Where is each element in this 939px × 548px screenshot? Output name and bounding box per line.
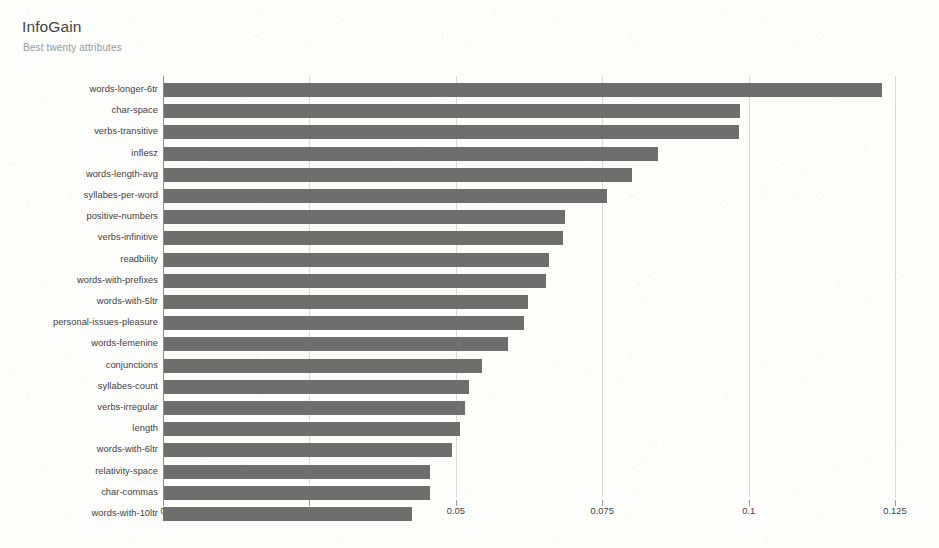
- x-tick-label: 0.05: [447, 506, 465, 516]
- y-tick-label-syllabes-count: syllabes-count: [0, 381, 158, 391]
- y-tick-label-verbs-irregular: verbs-irregular: [0, 402, 158, 412]
- bar-fill: [163, 125, 739, 139]
- x-tick-mark: [895, 500, 896, 506]
- chart-title: InfoGain: [22, 18, 81, 36]
- bar-fill: [163, 507, 412, 521]
- gridline-0.125: [895, 76, 896, 498]
- bar-fill: [163, 422, 460, 436]
- bar-fill: [163, 231, 563, 245]
- y-tick-label-verbs-transitive: verbs-transitive: [0, 126, 158, 136]
- x-tick-mark: [602, 500, 603, 506]
- y-tick-label-verbs-infinitive: verbs-infinitive: [0, 232, 158, 242]
- bar-fill: [163, 316, 524, 330]
- bar-fill: [163, 486, 430, 500]
- bar-words-with-5ltr[interactable]: [163, 295, 528, 309]
- y-tick-label-words-length-avg: words-length-avg: [0, 169, 158, 179]
- x-tick-label: 0.125: [883, 506, 906, 516]
- y-tick-label-words-with-10ltr: words-with-10ltr: [0, 508, 158, 518]
- bar-words-with-6ltr[interactable]: [163, 443, 452, 457]
- bar-verbs-transitive[interactable]: [163, 125, 739, 139]
- y-tick-label-conjunctions: conjunctions: [0, 360, 158, 370]
- bar-fill: [163, 337, 508, 351]
- bar-fill: [163, 147, 658, 161]
- y-tick-label-words-longer-6tr: words-longer-6tr: [0, 84, 158, 94]
- y-tick-label-inflesz: inflesz: [0, 148, 158, 158]
- y-tick-label-readbility: readbility: [0, 254, 158, 264]
- bar-fill: [163, 359, 482, 373]
- x-tick-mark: [309, 500, 310, 506]
- gridline-0.1: [749, 76, 750, 498]
- bar-readbility[interactable]: [163, 253, 549, 267]
- y-tick-label-syllabes-per-word: syllabes-per-word: [0, 190, 158, 200]
- bar-fill: [163, 104, 740, 118]
- bar-fill: [163, 168, 632, 182]
- bar-positive-numbers[interactable]: [163, 210, 565, 224]
- bar-fill: [163, 380, 469, 394]
- y-tick-label-words-with-prefixes: words-with-prefixes: [0, 275, 158, 285]
- plot-area: [163, 76, 895, 498]
- bar-personal-issues-pleasure[interactable]: [163, 316, 524, 330]
- y-tick-label-char-space: char-space: [0, 105, 158, 115]
- bar-words-length-avg[interactable]: [163, 168, 632, 182]
- bar-relativity-space[interactable]: [163, 465, 430, 479]
- y-tick-label-relativity-space: relativity-space: [0, 466, 158, 476]
- y-tick-label-positive-numbers: positive-numbers: [0, 211, 158, 221]
- bar-fill: [163, 274, 546, 288]
- y-tick-label-words-with-5ltr: words-with-5ltr: [0, 296, 158, 306]
- y-tick-label-personal-issues-pleasure: personal-issues-pleasure: [0, 317, 158, 327]
- bar-fill: [163, 189, 607, 203]
- bar-words-femenine[interactable]: [163, 337, 508, 351]
- bar-conjunctions[interactable]: [163, 359, 482, 373]
- x-tick-mark: [749, 500, 750, 506]
- bar-fill: [163, 465, 430, 479]
- bar-fill: [163, 401, 465, 415]
- bar-fill: [163, 295, 528, 309]
- x-tick-label: 0.075: [591, 506, 614, 516]
- bar-syllabes-per-word[interactable]: [163, 189, 607, 203]
- bar-fill: [163, 253, 549, 267]
- bar-char-space[interactable]: [163, 104, 740, 118]
- bar-verbs-infinitive[interactable]: [163, 231, 563, 245]
- y-tick-label-words-femenine: words-femenine: [0, 338, 158, 348]
- y-tick-label-char-commas: char-commas: [0, 487, 158, 497]
- y-tick-label-words-with-6ltr: words-with-6ltr: [0, 444, 158, 454]
- x-tick-label: 0.1: [742, 506, 755, 516]
- bar-syllabes-count[interactable]: [163, 380, 469, 394]
- bar-inflesz[interactable]: [163, 147, 658, 161]
- infogain-bar-chart: InfoGain Best twenty attributes words-lo…: [0, 0, 939, 548]
- x-tick-mark: [456, 500, 457, 506]
- bar-char-commas[interactable]: [163, 486, 430, 500]
- y-tick-label-length: length: [0, 423, 158, 433]
- bar-words-with-10ltr[interactable]: [163, 507, 412, 521]
- bar-fill: [163, 83, 882, 97]
- bar-fill: [163, 210, 565, 224]
- bar-fill: [163, 443, 452, 457]
- bar-length[interactable]: [163, 422, 460, 436]
- bar-words-longer-6tr[interactable]: [163, 83, 882, 97]
- x-tick-mark: [163, 500, 164, 506]
- y-axis-line: [163, 76, 164, 500]
- bar-words-with-prefixes[interactable]: [163, 274, 546, 288]
- bar-verbs-irregular[interactable]: [163, 401, 465, 415]
- chart-subtitle: Best twenty attributes: [23, 42, 122, 53]
